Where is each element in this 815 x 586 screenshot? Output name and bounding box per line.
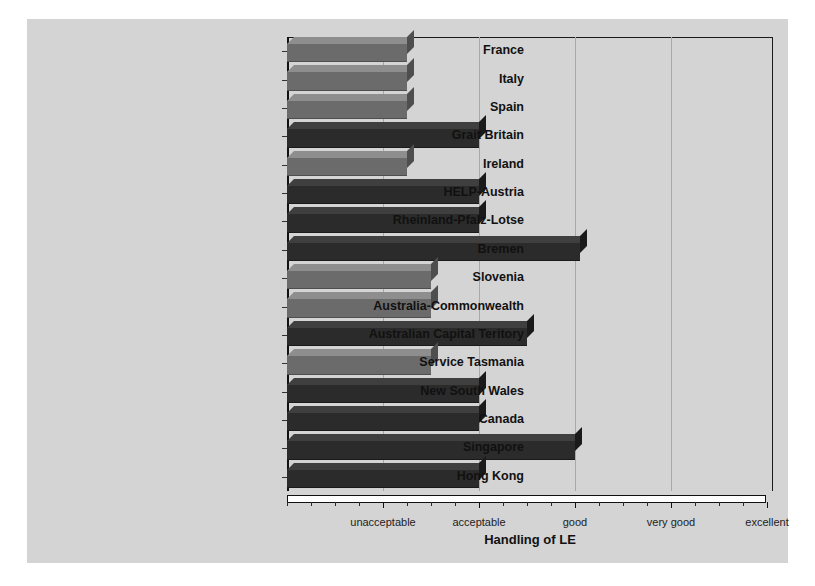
bar-side-face [407,58,414,82]
category-tick [282,51,287,52]
bar-face [287,101,407,119]
x-tick-minor [359,502,360,506]
category-tick [282,278,287,279]
x-tick-minor [311,502,312,506]
bar-top-face [287,236,587,243]
category-label-singapore: Singapore [463,440,524,454]
x-tick-minor [719,502,720,506]
category-label-bremen: Bremen [477,242,524,256]
x-tick-minor [695,502,696,506]
axis-floor [287,491,773,503]
x-tick-minor [647,502,648,506]
bar-row [287,122,773,150]
bar-singapore [287,441,575,458]
bar-row [287,264,773,292]
bar-hong-kong [287,470,479,487]
x-tick-major [671,502,672,508]
category-tick [282,250,287,251]
x-tick-major [479,502,480,508]
x-tick-minor [551,502,552,506]
x-tick-minor [599,502,600,506]
category-tick [282,136,287,137]
category-tick [282,80,287,81]
bar-service-tasmania [287,356,431,373]
bar-top-face [287,349,438,356]
bar-face [287,441,575,459]
bar-row [287,37,773,65]
category-label-help-austria: HELP-Austria [443,185,524,199]
bar-series [287,37,773,491]
bar-row [287,207,773,235]
category-label-france: France [483,43,524,57]
bar-row [287,378,773,406]
plot-area [287,37,773,491]
category-tick [282,363,287,364]
bar-face [287,413,479,431]
x-tick-minor [287,502,288,506]
bar-face [287,129,479,147]
category-tick [282,165,287,166]
bar-face [287,356,431,374]
category-label-ireland: Ireland [483,157,524,171]
bar-row [287,65,773,93]
bar-bremen [287,243,580,260]
bar-face [287,470,479,488]
category-label-service-tasmania: Service Tasmania [419,355,524,369]
category-tick [282,477,287,478]
bar-top-face [287,151,414,158]
bar-row [287,321,773,349]
category-tick [282,221,287,222]
x-axis-ticks [287,502,773,508]
bar-slovenia [287,271,431,288]
category-label-australia-commonwealth: Australia-Commonwealth [373,299,524,313]
x-tick-minor [503,502,504,506]
x-tick-minor [335,502,336,506]
category-label-slovenia: Slovenia [473,270,524,284]
bar-row [287,406,773,434]
category-tick [282,448,287,449]
x-tick-minor [455,502,456,506]
category-label-canada: Canada [479,412,524,426]
x-tick-minor [431,502,432,506]
bar-face [287,72,407,90]
category-label-rheinland-pfalz-lotse: Rheinland-Pfalz-Lotse [393,213,524,227]
bar-row [287,151,773,179]
bar-top-face [287,37,414,44]
x-tick-minor [407,502,408,506]
category-tick [282,420,287,421]
bar-row [287,349,773,377]
category-label-italy: Italy [499,72,524,86]
x-tick-major [767,502,768,508]
bar-canada [287,413,479,430]
bar-row [287,434,773,462]
x-tick-major [383,502,384,508]
bar-side-face [407,30,414,54]
x-tick-major [575,502,576,508]
x-tick-minor [623,502,624,506]
category-tick [282,335,287,336]
bar-row [287,179,773,207]
bar-top-face [287,94,414,101]
bar-row [287,463,773,491]
bar-france [287,44,407,61]
x-tick-minor [527,502,528,506]
category-label-australian-capital-teritory: Australian Capital Teritory [369,327,524,341]
bar-spain [287,101,407,118]
category-tick [282,307,287,308]
chart-figure: FranceItalySpainGrait BritainIrelandHELP… [27,19,788,563]
bar-row [287,236,773,264]
bar-top-face [287,264,438,271]
bar-face [287,243,580,261]
bar-ireland [287,158,407,175]
bar-face [287,44,407,62]
category-tick [282,108,287,109]
bar-top-face [287,406,486,413]
bar-row [287,94,773,122]
category-tick [282,193,287,194]
bar-top-face [287,434,582,441]
category-label-new-south-wales: New South Wales [420,384,524,398]
category-label-hong-kong: Hong Kong [457,469,524,483]
bar-grait-britain [287,129,479,146]
bar-face [287,271,431,289]
x-tick-minor [743,502,744,506]
